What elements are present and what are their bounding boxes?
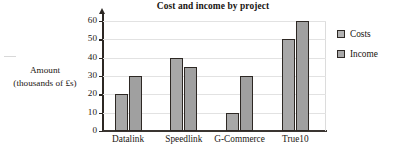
tick-mark bbox=[99, 21, 103, 22]
y-tick-label: 60 bbox=[88, 16, 97, 25]
legend-swatch-costs bbox=[337, 30, 345, 38]
bar-datalink-income bbox=[129, 76, 142, 131]
plot-area: 0102030405060 bbox=[103, 21, 326, 131]
bar-speedlink-costs bbox=[170, 58, 183, 131]
bar-datalink-costs bbox=[115, 94, 128, 131]
category-label-g-commerce: G-Commerce bbox=[214, 134, 265, 144]
legend-label-income: Income bbox=[350, 49, 378, 59]
category-label-speedlink: Speedlink bbox=[165, 134, 202, 144]
tick-mark bbox=[99, 39, 103, 40]
bar-chart-figure: Cost and income by project Amount (thous… bbox=[0, 0, 398, 154]
scan-artifact bbox=[4, 56, 16, 57]
y-axis-label: Amount (thousands of £s) bbox=[2, 64, 88, 89]
chart-title: Cost and income by project bbox=[124, 1, 302, 11]
gridline bbox=[103, 21, 326, 22]
y-tick-label: 50 bbox=[88, 35, 97, 44]
tick-mark bbox=[99, 113, 103, 114]
y-tick-label: 20 bbox=[88, 90, 97, 99]
y-axis-label-line-2: (thousands of £s) bbox=[2, 77, 88, 90]
tick-mark bbox=[99, 76, 103, 77]
bar-g-commerce-income bbox=[240, 76, 253, 131]
legend-item-income: Income bbox=[337, 46, 378, 61]
y-tick-label: 10 bbox=[88, 108, 97, 117]
tick-mark bbox=[99, 94, 103, 95]
legend-item-costs: Costs bbox=[337, 26, 378, 41]
bar-speedlink-income bbox=[184, 67, 197, 131]
y-axis-label-line-1: Amount bbox=[2, 64, 88, 77]
bar-true10-income bbox=[296, 21, 309, 131]
y-tick-label: 30 bbox=[88, 71, 97, 80]
bar-g-commerce-costs bbox=[226, 113, 239, 131]
y-tick-label: 0 bbox=[92, 126, 97, 135]
bar-true10-costs bbox=[282, 39, 295, 131]
category-label-datalink: Datalink bbox=[112, 134, 144, 144]
tick-mark bbox=[99, 58, 103, 59]
legend-label-costs: Costs bbox=[350, 29, 371, 39]
legend-swatch-income bbox=[337, 50, 345, 58]
y-tick-label: 40 bbox=[88, 53, 97, 62]
category-label-true10: True10 bbox=[282, 134, 309, 144]
chart-legend: CostsIncome bbox=[337, 26, 378, 66]
tick-mark bbox=[99, 131, 103, 132]
